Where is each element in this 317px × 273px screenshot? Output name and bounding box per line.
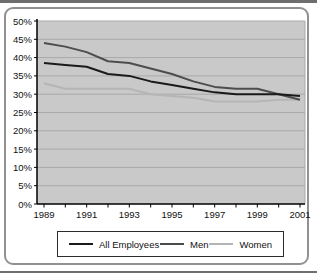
legend-line-swatch xyxy=(209,243,233,245)
x-tick-label: 1995 xyxy=(161,209,182,220)
y-tick-label: 25% xyxy=(13,107,33,118)
legend-label: All Employees xyxy=(99,239,159,250)
x-tick-label: 1993 xyxy=(119,209,140,220)
legend-label: Women xyxy=(239,239,272,250)
y-tick-label: 15% xyxy=(13,144,33,155)
y-tick-label: 45% xyxy=(13,34,33,45)
legend-label: Men xyxy=(190,239,208,250)
legend-line-swatch xyxy=(160,243,184,245)
y-tick-label: 5% xyxy=(18,180,32,191)
y-tick-label: 0% xyxy=(18,199,32,210)
legend-entry-women: Women xyxy=(209,239,272,250)
legend-entry-all-employees: All Employees xyxy=(69,239,159,250)
x-tick-label: 1991 xyxy=(76,209,97,220)
y-tick-label: 35% xyxy=(13,70,33,81)
chart-card: 0%5%10%15%20%25%30%35%40%45%50%198919911… xyxy=(0,0,317,273)
x-tick-label: 1997 xyxy=(204,209,225,220)
x-tick-label: 2001 xyxy=(289,209,310,220)
legend-entry-men: Men xyxy=(160,239,208,250)
chart-legend: All EmployeesMenWomen xyxy=(57,231,284,257)
y-tick-label: 50% xyxy=(13,16,33,27)
y-tick-label: 30% xyxy=(13,89,33,100)
x-tick-label: 1989 xyxy=(33,209,54,220)
y-tick-label: 20% xyxy=(13,125,33,136)
y-tick-label: 40% xyxy=(13,52,33,63)
legend-line-swatch xyxy=(69,243,93,245)
y-tick-label: 10% xyxy=(13,162,33,173)
x-tick-label: 1999 xyxy=(247,209,268,220)
